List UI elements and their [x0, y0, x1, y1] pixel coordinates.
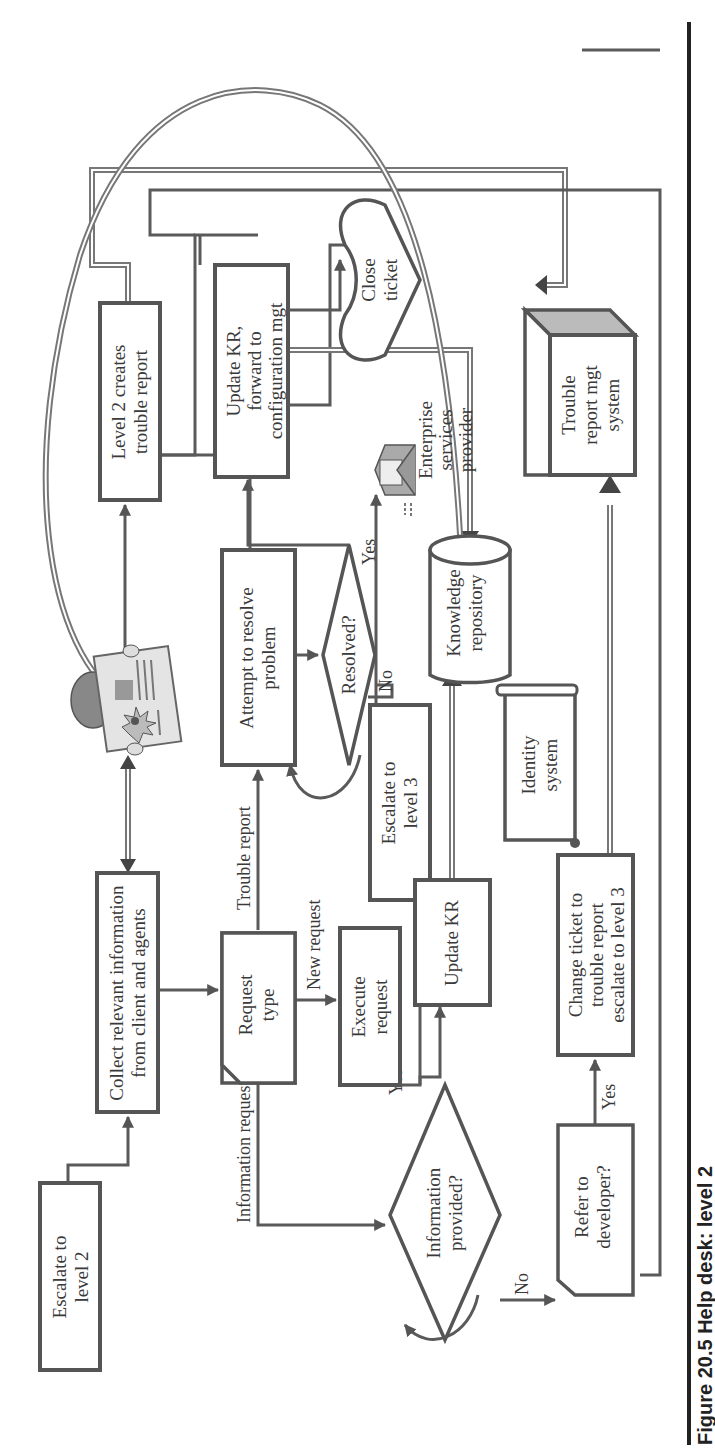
- svg-text:Information: Information: [423, 1167, 444, 1258]
- edge-label-new-request: New request: [304, 900, 324, 990]
- node-update-kr-forward: Update KR, forward to configuration mgt: [215, 265, 288, 477]
- svg-text:Trouble: Trouble: [558, 375, 579, 434]
- svg-text:Request: Request: [235, 974, 256, 1036]
- svg-text:type: type: [257, 989, 278, 1022]
- svg-text:ticket: ticket: [380, 258, 401, 301]
- edge-resolved-yes: [248, 480, 350, 545]
- svg-text:Attempt to resolve: Attempt to resolve: [236, 587, 257, 728]
- node-identity-system: Identity system: [497, 685, 580, 848]
- node-resolved-decision: Resolved?: [323, 545, 375, 765]
- flowchart-canvas: Figure 20.5 Help desk: level 2 Trouble r…: [0, 0, 715, 1455]
- node-knowledge-repository: Knowledge repository: [430, 536, 510, 683]
- svg-text:Resolved?: Resolved?: [338, 615, 359, 694]
- edge-label-info-no: No: [512, 1273, 532, 1295]
- svg-text:Refer to: Refer to: [571, 1176, 592, 1238]
- svg-text:Escalate to: Escalate to: [49, 1236, 70, 1319]
- svg-text:Collect relevant information: Collect relevant information: [106, 885, 127, 1101]
- node-enterprise-provider: Enterprise services provider: [375, 401, 476, 517]
- edge-label-refer-yes: Yes: [599, 1084, 619, 1110]
- svg-text:provider: provider: [455, 407, 476, 472]
- node-collect-info: Collect relevant information from client…: [97, 873, 158, 1112]
- svg-text:configuration mgt: configuration mgt: [265, 302, 286, 439]
- node-request-type: Request type: [222, 933, 295, 1083]
- node-attempt-resolve: Attempt to resolve problem: [222, 550, 295, 765]
- figure-caption: Figure 20.5 Help desk: level 2: [694, 1166, 715, 1445]
- email-envelope-icon: [375, 445, 415, 517]
- svg-text:Update KR,: Update KR,: [223, 326, 244, 417]
- edge-label-info-request: Information request: [234, 1081, 254, 1223]
- svg-text:Change ticket to: Change ticket to: [565, 893, 586, 1018]
- svg-text:Knowledge: Knowledge: [443, 569, 464, 657]
- node-trouble-report-mgt: Trouble report mgt system: [525, 310, 635, 475]
- svg-text:problem: problem: [258, 626, 279, 690]
- svg-text:Escalate to: Escalate to: [378, 762, 399, 845]
- svg-text:request: request: [370, 979, 391, 1035]
- node-execute-request: Execute request: [340, 928, 400, 1085]
- svg-text:level 3: level 3: [400, 777, 421, 828]
- node-change-ticket: Change ticket to trouble report escalate…: [558, 855, 633, 1055]
- svg-text:repository: repository: [465, 574, 486, 652]
- svg-text:system: system: [540, 738, 561, 791]
- svg-text:trouble report: trouble report: [130, 349, 151, 454]
- svg-text:Update KR: Update KR: [441, 900, 462, 986]
- svg-text:Enterprise: Enterprise: [415, 401, 436, 479]
- node-info-provided-decision: Information provided?: [390, 1085, 500, 1340]
- node-escalate-level2: Escalate to level 2: [40, 1183, 100, 1370]
- svg-text:services: services: [435, 409, 456, 470]
- svg-text:provided?: provided?: [445, 1175, 466, 1251]
- node-update-kr: Update KR: [415, 880, 490, 1005]
- svg-text:Execute: Execute: [348, 976, 369, 1037]
- svg-text:system: system: [602, 378, 623, 431]
- svg-text:Level 2 creates: Level 2 creates: [108, 345, 129, 460]
- node-refer-developer: Refer to developer?: [558, 1125, 633, 1295]
- svg-text:developer?: developer?: [593, 1165, 614, 1248]
- svg-text:report mgt: report mgt: [580, 364, 601, 444]
- svg-text:escalate to level 3: escalate to level 3: [607, 887, 628, 1023]
- svg-text:from client and agents: from client and agents: [128, 908, 149, 1077]
- svg-text:Identity: Identity: [518, 735, 539, 795]
- svg-text:level 2: level 2: [71, 1251, 92, 1302]
- edge-label-resolved-no: No: [376, 670, 396, 692]
- edge-info-request: [258, 1080, 385, 1225]
- edge-escalate2-collect: [68, 1117, 128, 1183]
- node-escalate-level3: Escalate to level 3: [370, 705, 430, 900]
- svg-text:forward to: forward to: [244, 331, 265, 411]
- edge-update-close: [288, 245, 345, 405]
- node-level2-creates: Level 2 creates trouble report: [100, 303, 160, 500]
- svg-text:trouble report: trouble report: [586, 902, 607, 1007]
- svg-text:Close: Close: [358, 258, 379, 301]
- edge-label-trouble-report: Trouble report: [234, 806, 254, 910]
